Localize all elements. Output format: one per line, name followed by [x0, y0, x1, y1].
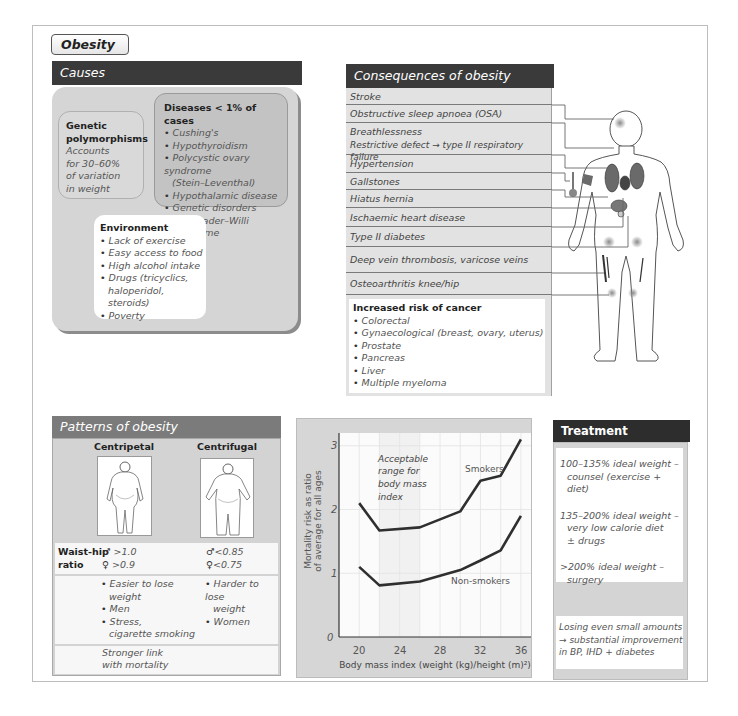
disease-item: Genetic disorders	[164, 202, 287, 215]
feature-item: Stress,	[101, 616, 195, 629]
x-tick: 28	[434, 645, 447, 656]
consequence-label: Osteoarthritis knee/hip	[350, 278, 459, 289]
treatment-item-sub: surgery	[560, 574, 683, 587]
consequence-label: Gallstones	[350, 176, 400, 187]
treatment-item: 135–200% ideal weight –	[560, 510, 683, 523]
environment-box: Environment Lack of exercise Easy access…	[94, 215, 206, 319]
centripetal-label: Centripetal	[89, 441, 159, 454]
environment-item: Poverty	[100, 310, 206, 323]
consequence-item: Ischaemic heart disease	[346, 208, 552, 227]
y-axis-label-line: of average for all ages	[313, 470, 323, 572]
environment-item-sub: haloperidol, steroids)	[100, 285, 206, 310]
treatment-item-sub: ± drugs	[560, 535, 683, 548]
cancer-item: Liver	[353, 365, 545, 378]
treatment-note: Losing even small amounts → substantial …	[556, 616, 683, 669]
centripetal-figure-icon	[97, 456, 152, 536]
centripetal-features: Easier to lose weight Men Stress, cigare…	[101, 578, 195, 641]
note-line: in BP, IHD + diabetes	[559, 646, 683, 659]
y-tick-labels: 0 1 2 3	[327, 440, 337, 643]
annotation-line: body mass	[378, 479, 427, 489]
environment-item: Drugs (tricyclics,	[100, 272, 206, 285]
note-line: Losing even small amounts	[559, 621, 683, 634]
female-symbol-icon: ♀	[206, 559, 213, 570]
treatment-item: >200% ideal weight –	[560, 561, 683, 574]
mortality-chart-panel: 0 1 2 3 20 24 28 32 36 Body mass index (…	[296, 418, 532, 678]
x-axis-label: Body mass index (weight (kg)/height (m)²…	[339, 660, 531, 670]
consequence-item: Osteoarthritis knee/hip	[346, 273, 552, 295]
consequence-label: Type II diabetes	[350, 231, 425, 242]
genetic-body-line: of variation	[66, 170, 143, 183]
disease-item-sub: (Stein–Leventhal)	[164, 177, 287, 190]
ratio-label: ratio	[58, 559, 83, 572]
consequence-item: Deep vein thrombosis, varicose veins	[346, 247, 552, 273]
environment-item: Easy access to food	[100, 247, 206, 260]
consequence-label: Obstructive sleep apnoea (OSA)	[350, 108, 502, 119]
cancer-item: Gynaecological (breast, ovary, uterus)	[353, 327, 545, 340]
disease-item: Hypothyroidism	[164, 140, 287, 153]
feature-item: Easier to lose	[101, 578, 195, 591]
genetic-title-line: polymorphisms	[66, 133, 143, 146]
mortality-line: with mortality	[102, 659, 168, 672]
consequence-item: Hypertension	[346, 155, 552, 173]
feature-item-sub: weight	[205, 603, 278, 616]
y-tick: 0	[327, 632, 333, 643]
feature-item: Men	[101, 603, 195, 616]
consequence-item: Breathlessness Restrictive defect → type…	[346, 123, 552, 155]
y-axis-label: Mortality risk as ratio of average for a…	[303, 470, 323, 572]
ratio-value: >0.9	[112, 559, 135, 570]
annotation-line: index	[378, 492, 403, 502]
mortality-line: Stronger link	[102, 647, 163, 660]
consequence-item: Gallstones	[346, 173, 552, 190]
consequence-label: Breathlessness	[350, 126, 552, 139]
diseases-title: Diseases < 1% of cases	[164, 102, 287, 127]
y-tick: 2	[331, 504, 337, 515]
note-line: → substantial improvement	[559, 634, 683, 647]
cancer-title: Increased risk of cancer	[353, 302, 545, 315]
treatment-options: 100–135% ideal weight – counsel (exercis…	[556, 448, 683, 582]
feature-item-sub: weight	[101, 591, 195, 604]
annotation-line: range for	[378, 466, 421, 476]
consequence-item: Obstructive sleep apnoea (OSA)	[346, 105, 552, 123]
genetic-polymorphisms-box: Genetic polymorphisms Accounts for 30–60…	[58, 111, 144, 199]
mortality-bmi-chart: 0 1 2 3 20 24 28 32 36 Body mass index (…	[297, 419, 533, 679]
consequence-item: Stroke	[346, 88, 552, 105]
consequence-label: Stroke	[350, 91, 381, 102]
patterns-header: Patterns of obesity	[52, 416, 281, 438]
page-title: Obesity	[51, 34, 129, 55]
genetic-body-line: for 30–60%	[66, 158, 143, 171]
consequence-label: Hiatus hernia	[350, 193, 414, 204]
centrifugal-figure-icon	[200, 458, 254, 538]
disease-item: Cushing's	[164, 127, 287, 140]
genetic-body-line: in weight	[66, 183, 143, 196]
environment-title: Environment	[100, 222, 206, 235]
treatment-header: Treatment	[553, 420, 690, 442]
ratio-value: <0.85	[215, 546, 244, 557]
environment-item: Lack of exercise	[100, 235, 206, 248]
cancer-item: Multiple myeloma	[353, 377, 545, 390]
smokers-label: Smokers	[465, 464, 504, 474]
cancer-item: Pancreas	[353, 352, 545, 365]
cancer-item: Prostate	[353, 340, 545, 353]
mortality-row: Stronger link with mortality	[55, 646, 278, 674]
consequence-item: Type II diabetes	[346, 227, 552, 247]
feature-item: Women	[205, 616, 278, 629]
feature-item-sub: cigarette smoking	[101, 628, 195, 641]
x-tick-labels: 20 24 28 32 36	[353, 645, 528, 656]
consequence-label: Hypertension	[350, 158, 414, 169]
y-tick: 3	[331, 440, 337, 451]
treatment-item: 100–135% ideal weight –	[560, 458, 683, 471]
environment-item: High alcohol intake	[100, 260, 206, 273]
centrifugal-male-ratio: ♂<0.85	[206, 546, 244, 559]
consequences-header: Consequences of obesity	[346, 64, 554, 88]
centrifugal-female-ratio: ♀<0.75	[206, 559, 242, 572]
consequence-item: Hiatus hernia	[346, 190, 552, 208]
cancer-risk-box: Increased risk of cancer Colorectal Gyna…	[349, 299, 545, 393]
centrifugal-label: Centrifugal	[192, 441, 262, 454]
male-symbol-icon: ♂	[102, 546, 111, 557]
waist-hip-ratio-row: Waist-hip ratio ♂ >1.0 ♀ >0.9 ♂<0.85 ♀<0…	[55, 543, 278, 574]
genetic-title-line: Genetic	[66, 120, 143, 133]
cancer-item: Colorectal	[353, 315, 545, 328]
x-tick: 36	[515, 645, 528, 656]
non-smokers-label: Non-smokers	[451, 576, 510, 586]
x-tick: 24	[394, 645, 407, 656]
